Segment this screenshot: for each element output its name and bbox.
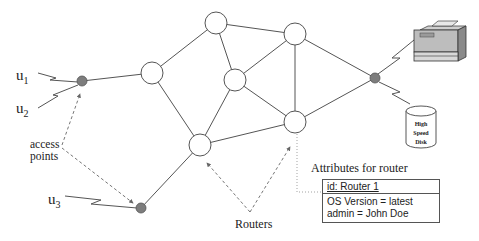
router-id: id: Router 1 bbox=[323, 180, 439, 194]
router-node[interactable] bbox=[205, 12, 227, 34]
router-node-router-1[interactable] bbox=[284, 111, 306, 133]
router-node[interactable] bbox=[284, 23, 306, 45]
user-label-u1: u1 bbox=[16, 67, 29, 86]
attribute-os-version: OS Version = latest bbox=[327, 196, 439, 208]
disk-label-line1: High bbox=[415, 121, 428, 127]
access-points-label-line1: access bbox=[30, 138, 60, 150]
router-node[interactable] bbox=[189, 134, 211, 156]
disk-label-line3: Disk bbox=[415, 139, 427, 145]
attribute-admin: admin = John Doe bbox=[327, 208, 439, 220]
user-label-u3: u3 bbox=[48, 191, 61, 210]
access-point-node[interactable] bbox=[136, 203, 146, 213]
router-node[interactable] bbox=[141, 62, 163, 84]
high-speed-disk-icon[interactable]: High Speed Disk bbox=[406, 106, 436, 148]
routers-label: Routers bbox=[235, 217, 273, 231]
router-node[interactable] bbox=[224, 69, 246, 91]
router-attribute-box: id: Router 1 OS Version = latest admin =… bbox=[322, 179, 440, 223]
routers bbox=[141, 12, 306, 156]
user-label-u2: u2 bbox=[16, 100, 29, 119]
access-point-node[interactable] bbox=[370, 73, 380, 83]
disk-label-line2: Speed bbox=[413, 130, 429, 136]
access-points-label-line2: points bbox=[30, 150, 59, 163]
access-point-node[interactable] bbox=[77, 76, 87, 86]
printer-icon[interactable] bbox=[414, 21, 466, 61]
router-attributes: OS Version = latest admin = John Doe bbox=[323, 194, 439, 220]
attributes-title: Attributes for router bbox=[311, 161, 408, 176]
